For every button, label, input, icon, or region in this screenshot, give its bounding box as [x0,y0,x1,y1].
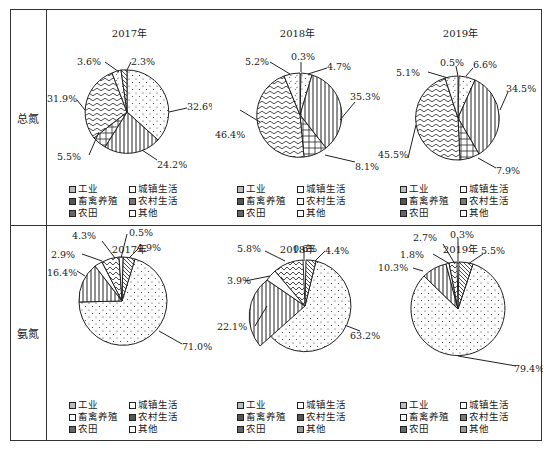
data-label: 0.5% [440,57,464,68]
legend-swatch-icon [69,402,76,409]
pie-chart: 4.9% 71.0% 16.4% 2.9% 4.3% 0.5% [47,226,212,396]
pie-panel-an-2018: 2018年 4.4% 63.2% 22.1% 3.9% 5.8% 0.6% 工业… [215,226,380,441]
legend-swatch-icon [129,198,136,205]
legend-swatch-icon [400,426,407,433]
data-label: 5.1% [396,67,420,78]
legend-swatch-icon [460,198,467,205]
legend-swatch-icon [400,210,407,217]
legend-swatch-icon [129,402,136,409]
legend-swatch-icon [237,414,244,421]
data-label: 4.7% [327,61,351,72]
legend-swatch-icon [129,426,136,433]
legend-swatch-icon [297,426,304,433]
pie-panel-tn-2017: 2017年 32.6% 24.2% 5.5% 31.9% 3.6% 2.3% 工… [47,10,212,225]
legend-swatch-icon [460,210,467,217]
pie-chart: 4.4% 63.2% 22.1% 3.9% 5.8% 0.6% [215,226,380,396]
data-label: 79.4% [514,363,543,374]
legend-swatch-icon [297,402,304,409]
data-label: 2.3% [131,56,155,67]
legend-swatch-icon [297,210,304,217]
data-label: 32.6% [187,101,212,112]
legend-swatch-icon [297,186,304,193]
data-label: 4.4% [325,245,349,256]
data-label: 4.3% [72,230,96,241]
pie-panel-tn-2019: 2019年 6.6% 34.5% 7.9% 45.5% 5.1% 0.5% 工业… [378,10,543,225]
legend-swatch-icon [460,402,467,409]
data-label: 71.0% [182,341,212,352]
data-label: 16.4% [47,267,77,278]
pie-chart: 5.5% 79.4% 10.3% 1.8% 2.7% 0.3% [378,226,543,396]
data-label: 0.3% [291,51,315,62]
data-label: 46.4% [215,129,245,140]
pie-panel-an-2017: 2017年 4.9% 71.0% 16.4% 2.9% 4.3% 0.5% 工业… [47,226,212,441]
legend-swatch-icon [460,414,467,421]
legend-swatch-icon [400,414,407,421]
legend-swatch-icon [237,402,244,409]
data-label: 10.3% [378,262,408,273]
legend-swatch-icon [69,186,76,193]
legend-swatch-icon [237,210,244,217]
data-label: 31.9% [47,93,77,104]
data-label: 0.6% [293,243,317,254]
data-label: 4.9% [137,242,161,253]
data-label: 2.7% [413,232,437,243]
data-label: 3.9% [227,275,251,286]
pie-chart: 32.6% 24.2% 5.5% 31.9% 3.6% 2.3% [47,10,212,180]
legend-swatch-icon [69,414,76,421]
legend-swatch-icon [237,198,244,205]
data-label: 5.5% [481,245,505,256]
pie-panel-an-2019: 2019年 5.5% 79.4% 10.3% 1.8% 2.7% 0.3% 工业… [378,226,543,441]
row-label-total-nitrogen: 总氮 [10,110,46,126]
row-label-ammonia-nitrogen: 氨氮 [10,325,46,341]
data-label: 35.3% [350,91,380,102]
data-label: 3.6% [77,56,101,67]
legend-swatch-icon [69,210,76,217]
legend-swatch-icon [297,198,304,205]
legend-swatch-icon [129,186,136,193]
legend-swatch-icon [129,414,136,421]
pie-panel-tn-2018: 2018年 4.7% 35.3% 8.1% 46.4% 5.2% 0.3% 工业… [215,10,380,225]
data-label: 7.9% [496,165,520,176]
data-label: 5.8% [237,243,261,254]
data-label: 5.5% [57,151,81,162]
data-label: 22.1% [217,321,247,332]
data-label: 6.6% [473,59,497,70]
data-label: 2.9% [51,249,75,260]
legend-swatch-icon [129,210,136,217]
data-label: 63.2% [350,330,380,341]
legend-swatch-icon [69,426,76,433]
data-label: 24.2% [157,159,187,170]
legend-swatch-icon [460,186,467,193]
data-label: 8.1% [355,161,379,172]
legend-swatch-icon [400,186,407,193]
legend-swatch-icon [237,426,244,433]
data-label: 34.5% [506,83,536,94]
pie-chart: 4.7% 35.3% 8.1% 46.4% 5.2% 0.3% [215,10,380,180]
legend-swatch-icon [69,198,76,205]
data-label: 5.2% [245,56,269,67]
legend-swatch-icon [400,198,407,205]
legend-swatch-icon [297,414,304,421]
legend-swatch-icon [237,186,244,193]
data-label: 45.5% [378,149,408,160]
data-label: 0.5% [129,227,153,238]
pie-chart: 6.6% 34.5% 7.9% 45.5% 5.1% 0.5% [378,10,543,180]
legend-swatch-icon [400,402,407,409]
data-label: 0.3% [450,229,474,240]
legend-swatch-icon [460,426,467,433]
data-label: 1.8% [400,249,424,260]
